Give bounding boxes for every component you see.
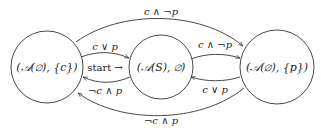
state-middle-label: (𝒜(S), ∅) (137, 61, 186, 74)
start-marker: start → (87, 62, 123, 73)
edge-label-right-to-middle: c ∨ p (202, 84, 228, 95)
state-right-label: (𝒜(∅), {p}) (246, 61, 308, 74)
edge-label-left-to-right: c ∧ ¬p (144, 6, 179, 17)
state-right: (𝒜(∅), {p}) (240, 30, 314, 104)
edge-label-middle-to-left: ¬c ∧ p (88, 85, 123, 96)
state-middle: (𝒜(S), ∅) (129, 35, 193, 99)
edge-label-right-to-left: ¬c ∧ p (144, 115, 179, 126)
edge-label-middle-to-right: c ∧ ¬p (198, 39, 233, 50)
state-diagram: c ∧ ¬p ¬c ∧ p c ∨ p ¬c ∧ p c ∧ ¬p c ∨ p … (0, 0, 321, 134)
state-left: (𝒜(∅), {c}) (11, 31, 83, 103)
edge-label-left-to-middle: c ∨ p (92, 41, 118, 52)
state-left-label: (𝒜(∅), {c}) (16, 61, 77, 74)
edge-middle-to-left (83, 77, 130, 82)
edge-right-to-middle (191, 77, 240, 81)
edge-left-to-middle (81, 53, 129, 58)
edge-middle-to-right (191, 54, 240, 59)
